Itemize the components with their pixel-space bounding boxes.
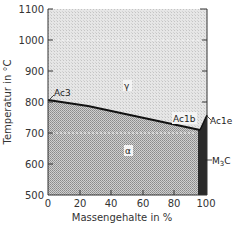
x-tick-label: 0 — [45, 198, 51, 209]
x-tick-label: 80 — [168, 198, 181, 209]
m3c-label-main: M — [212, 156, 220, 166]
ac3-label: Ac3 — [54, 88, 71, 98]
y-tick-label: 500 — [25, 190, 44, 201]
y-tick-label: 900 — [25, 66, 44, 77]
y-tick-label: 800 — [25, 97, 44, 108]
y-tick-label: 1000 — [19, 35, 44, 46]
x-axis-title: Massengehalte in % — [72, 212, 172, 223]
x-tick-label: 40 — [105, 198, 118, 209]
x-tick-label: 100 — [196, 198, 215, 209]
x-tick-label: 20 — [74, 198, 87, 209]
y-axis-title: Temperatur in °C — [2, 60, 13, 146]
y-tick-label: 700 — [25, 128, 44, 139]
m3c-label-tail: C — [224, 156, 230, 166]
ac1b-label: Ac1b — [173, 114, 196, 124]
gamma-label: γ — [124, 81, 130, 91]
ac1e-label: Ac1e — [210, 116, 233, 126]
x-tick-label: 60 — [137, 198, 150, 209]
alpha-label: α — [125, 146, 131, 156]
y-tick-label: 600 — [25, 159, 44, 170]
y-tick-label: 1100 — [19, 4, 44, 15]
phase-diagram: 1100 1000 900 800 700 600 500 0 20 40 60… — [0, 0, 239, 232]
m3c-label: M3C — [212, 156, 231, 168]
